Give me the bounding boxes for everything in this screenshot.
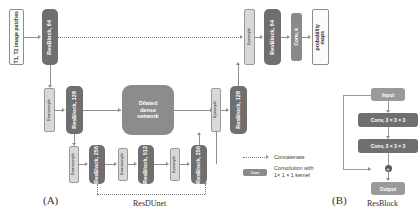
connector-res128d-up [238, 65, 239, 86]
connector-res64-down [50, 65, 51, 86]
legend: Concatenate Conv Convolution with 1× 1 ×… [243, 150, 338, 196]
resblock-64-encoder: ResBlock, 64 [42, 9, 58, 65]
dilated-dense-network-label: Dilated dense network [137, 100, 158, 121]
panel-b-sum-label: + [386, 166, 390, 172]
probability-maps-label: probability maps [315, 24, 326, 51]
resblock-64-decoder: ResBlock, 64 [264, 9, 281, 65]
connector-input-to-res64 [24, 37, 38, 38]
downsample-3: Downsample [118, 148, 128, 181]
resblock-128-decoder: ResBlock, 128 [230, 86, 247, 134]
skip-level3-down [97, 184, 98, 194]
legend-convolution-swatch-label: Conv [251, 171, 259, 175]
connector-res256d-up [199, 135, 200, 145]
resblock-512-label: ResBlock, 512 [143, 146, 149, 184]
panel-b-caption: ResBlock [367, 199, 398, 208]
upsample-3-label: Upsample [173, 156, 177, 173]
probability-maps-box: probability maps [312, 9, 329, 65]
arrow-up2-to-res128d [226, 108, 229, 112]
arrow-res128-to-dense [118, 108, 121, 112]
skip-connection-level1 [58, 37, 241, 38]
resblock-128-decoder-label: ResBlock, 128 [236, 91, 242, 129]
upsample-3: Upsample [170, 148, 180, 181]
panel-b-letter: (B) [332, 194, 347, 206]
resblock-256-decoder-label: ResBlock, 256 [196, 146, 202, 184]
legend-convolution-swatch: Conv [243, 169, 267, 176]
arrow-up1-to-res64d [260, 35, 263, 39]
panel-b-skip-top [343, 95, 371, 96]
panel-b-conv2: Conv, 3 × 3 × 3 [358, 139, 418, 153]
resblock-512: ResBlock, 512 [138, 145, 154, 184]
panel-b-arrow-sum-output [386, 178, 390, 181]
panel-a-caption: ResDUnet [133, 199, 166, 208]
resblock-256-decoder: ResBlock, 256 [191, 145, 207, 184]
panel-b-output: Output [371, 182, 405, 195]
downsample-2: Downsample [69, 146, 79, 183]
arrow-ds2-to-res256e [85, 162, 88, 166]
resblock-256-encoder: ResBlock, 256 [89, 145, 105, 184]
dilated-dense-network: Dilated dense network [122, 85, 174, 135]
arrow-up3-to-res256d [187, 162, 190, 166]
connector-res128-to-dense [83, 110, 119, 111]
panel-a-letter: (A) [43, 194, 58, 206]
panel-b-input: Input [371, 88, 405, 101]
connector-up2-bottom [216, 132, 217, 164]
figure-canvas: T1, T2 image patches ResBlock, 64 Downsa… [0, 0, 419, 220]
skip-connection-level3 [97, 194, 205, 195]
arrow-res64d-to-convk [287, 35, 290, 39]
connector-dense-to-up1 [174, 110, 210, 111]
panel-b-conv2-label: Conv, 3 × 3 × 3 [371, 143, 406, 149]
arrow-ds3-to-res512 [134, 162, 137, 166]
resblock-64-decoder-label: ResBlock, 64 [270, 20, 276, 55]
resblock-128-encoder: ResBlock, 128 [66, 86, 83, 134]
arrow-res512-to-up3 [166, 162, 169, 166]
legend-concatenate-label: Concatenate [274, 154, 305, 161]
panel-b-skip-left [343, 95, 344, 169]
legend-concatenate-arrow [266, 155, 269, 159]
arrow-skip-level1 [240, 35, 243, 39]
input-patches-label: T1, T2 image patches [14, 11, 19, 63]
panel-b-output-label: Output [380, 186, 396, 192]
panel-b-skip-arrow [368, 167, 371, 171]
conv-k-block: Conv, k [291, 13, 302, 61]
arrow-res128d-up [236, 62, 240, 65]
downsample-1: Downsample [44, 88, 55, 132]
arrow-input-to-res64 [38, 35, 41, 39]
upsample-1: Upsample [244, 9, 255, 65]
upsample-2-label: Upsample [214, 101, 218, 118]
conv-k-label: Conv, k [294, 28, 299, 46]
arrow-res256e-to-ds3 [114, 162, 117, 166]
resblock-128-encoder-label: ResBlock, 128 [72, 91, 78, 129]
panel-b-skip-bottom [343, 169, 371, 170]
arrow-convk-to-output [308, 35, 311, 39]
downsample-3-label: Downsample [121, 153, 125, 175]
resblock-256-encoder-label: ResBlock, 256 [94, 146, 100, 184]
legend-convolution-label: Convolution with 1× 1 × 1 kernel [274, 165, 314, 179]
upsample-1-label: Upsample [248, 28, 252, 45]
downsample-2-label: Downsample [72, 153, 76, 175]
arrow-ds1-to-res128 [62, 108, 65, 112]
panel-b-conv1: Conv, 3 × 3 × 3 [358, 113, 418, 127]
panel-b-input-label: Input [382, 92, 394, 98]
panel-b-line-conv2-sum [388, 153, 389, 165]
arrow-res256d-up [197, 132, 201, 135]
resblock-64-encoder-label: ResBlock, 64 [47, 20, 53, 55]
upsample-2: Upsample [211, 88, 221, 132]
legend-concatenate-line [243, 157, 267, 158]
panel-b-sum-node: + [385, 165, 392, 172]
downsample-1-label: Downsample [48, 99, 52, 121]
panel-b-conv1-label: Conv, 3 × 3 × 3 [371, 117, 406, 123]
skip-level3-up [205, 184, 206, 194]
input-patches-box: T1, T2 image patches [9, 9, 24, 65]
